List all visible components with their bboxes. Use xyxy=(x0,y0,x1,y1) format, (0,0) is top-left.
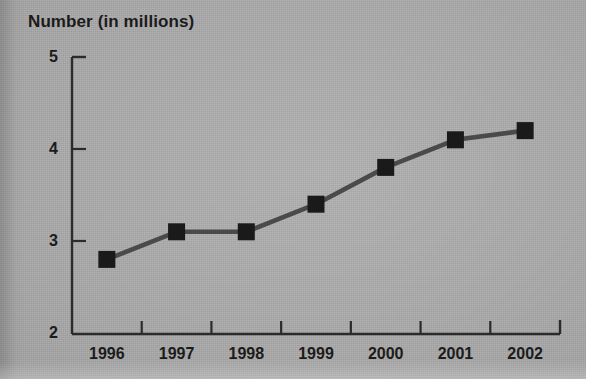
x-tick-label: 2001 xyxy=(438,345,474,363)
axes-group xyxy=(72,57,560,334)
x-tick-label: 1997 xyxy=(159,345,195,363)
y-tick-label: 3 xyxy=(36,232,58,250)
x-tick-label: 1998 xyxy=(228,345,264,363)
x-tick-label: 2002 xyxy=(507,345,543,363)
data-point-marker xyxy=(308,196,325,213)
data-point-marker xyxy=(238,223,255,240)
chart-screenshot: Number (in millions) 5432 xyxy=(0,0,610,389)
y-tick-marks xyxy=(72,149,86,241)
y-tick-label: 5 xyxy=(36,48,58,66)
x-tick-label: 1996 xyxy=(89,345,125,363)
x-tick-marks xyxy=(142,321,491,334)
y-tick-label: 4 xyxy=(36,140,58,158)
data-markers-group xyxy=(98,122,533,268)
chart-svg xyxy=(0,0,586,379)
data-point-marker xyxy=(98,251,115,268)
data-point-marker xyxy=(447,131,464,148)
chart-panel: Number (in millions) 5432 xyxy=(0,0,586,379)
data-point-marker xyxy=(377,159,394,176)
x-tick-label: 1999 xyxy=(298,345,334,363)
plot-area: 5432 1996199719981999200020012002 xyxy=(0,0,586,379)
y-tick-label: 2 xyxy=(36,324,58,342)
data-point-marker xyxy=(168,223,185,240)
data-point-marker xyxy=(517,122,534,139)
x-tick-label: 2000 xyxy=(368,345,404,363)
